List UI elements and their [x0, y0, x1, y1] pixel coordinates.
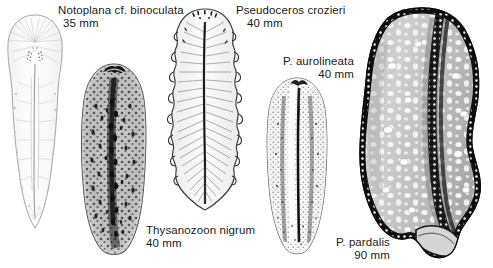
specimen-pseudoceros-crozieri — [162, 6, 248, 214]
label-thysanozoon-nigrum: Thysanozoon nigrum 40 mm — [146, 224, 255, 250]
label-pseudoceros-crozieri: Pseudoceros crozieri 40 mm — [236, 4, 345, 30]
label-size-value: 40 mm — [146, 237, 255, 250]
label-notoplana-binoculata: Notoplana cf. binoculata 35 mm — [58, 4, 184, 30]
label-species-name: Thysanozoon nigrum — [146, 224, 255, 237]
specimen-pseudoceros-pardalis — [352, 4, 492, 266]
label-species-name: P. aurolineata — [283, 55, 354, 68]
specimen-pseudoceros-aurolineata — [262, 76, 332, 258]
specimen-notoplana-binoculata — [4, 12, 66, 232]
label-species-name: Notoplana cf. binoculata — [58, 4, 184, 17]
specimen-thysanozoon-nigrum — [78, 62, 150, 258]
label-pseudoceros-pardalis: P. pardalis 90 mm — [336, 236, 390, 262]
label-size-value: 40 mm — [283, 68, 354, 81]
label-pseudoceros-aurolineata: P. aurolineata 40 mm — [283, 55, 354, 81]
label-size-value: 90 mm — [336, 249, 390, 262]
flatworm-plate: Notoplana cf. binoculata 35 mm Pseudocer… — [0, 0, 493, 268]
label-size-value: 40 mm — [236, 17, 345, 30]
label-species-name: Pseudoceros crozieri — [236, 4, 345, 17]
label-species-name: P. pardalis — [336, 236, 390, 249]
label-size-value: 35 mm — [58, 17, 184, 30]
